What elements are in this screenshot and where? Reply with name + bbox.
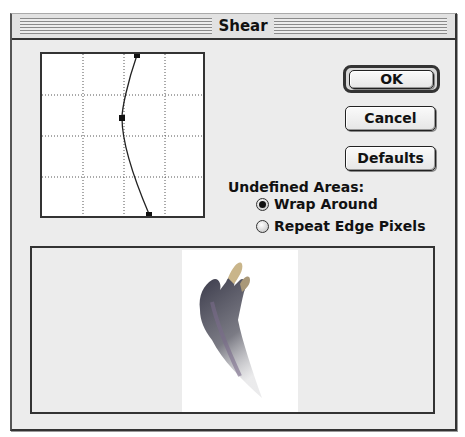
title-stripes-left <box>20 18 212 34</box>
radio-wrap-around-label: Wrap Around <box>274 196 378 212</box>
radio-repeat-edge-pixels-label: Repeat Edge Pixels <box>274 218 426 234</box>
brush-stroke-image <box>182 250 298 412</box>
radio-repeat-edge-pixels[interactable]: Repeat Edge Pixels <box>256 216 426 236</box>
control-point-middle <box>119 115 125 121</box>
preview-panel <box>30 246 435 414</box>
radio-wrap-around[interactable]: Wrap Around <box>256 194 378 214</box>
default-button-ring: OK <box>343 65 440 93</box>
title-stripes-right <box>274 18 447 34</box>
control-point-top <box>134 54 140 58</box>
control-point-bottom <box>146 212 152 216</box>
ok-button[interactable]: OK <box>349 70 434 89</box>
radio-unchecked-icon[interactable] <box>256 220 269 233</box>
undefined-areas-label: Undefined Areas: <box>228 179 364 195</box>
defaults-button[interactable]: Defaults <box>345 146 436 171</box>
dialog-title: Shear <box>212 16 274 36</box>
shear-dialog: Shear OK Cancel Defaults Undefined Areas… <box>10 13 457 431</box>
radio-checked-icon[interactable] <box>256 198 269 211</box>
preview-image <box>182 250 298 412</box>
shear-curve-graph[interactable] <box>40 52 205 218</box>
shear-curve <box>122 55 149 214</box>
grid-lines <box>42 54 203 216</box>
title-bar[interactable]: Shear <box>12 14 455 40</box>
cancel-button[interactable]: Cancel <box>345 106 436 131</box>
shear-curve-svg <box>42 54 203 216</box>
